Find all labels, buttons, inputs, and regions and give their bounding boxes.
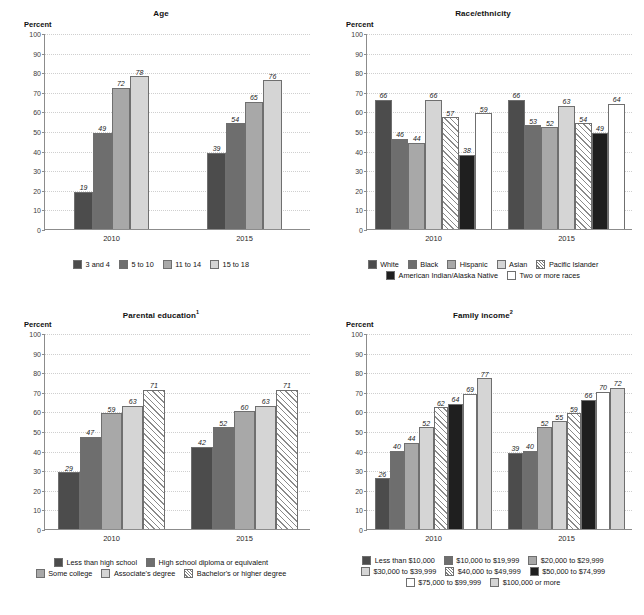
bar-value-label: 71 [283, 382, 291, 389]
legend-swatch-icon [361, 567, 370, 576]
legend-item[interactable]: $40,000 to $49,999 [445, 567, 520, 576]
bar: 44 [408, 143, 425, 229]
bar: 52 [213, 427, 234, 529]
y-tick-label: 20 [33, 187, 41, 194]
y-tick-label: 100 [351, 31, 363, 38]
legend-swatch-icon [362, 556, 371, 565]
legend-label: 11 to 14 [175, 261, 201, 269]
bar: 39 [508, 453, 523, 529]
y-tick-label: 50 [355, 429, 363, 436]
legend-item[interactable]: 3 and 4 [73, 260, 110, 269]
bar-value-label: 59 [108, 406, 116, 413]
y-tick-label: 50 [355, 129, 363, 136]
bar: 57 [442, 117, 459, 229]
chart-panel-parental-education: Parental education1Percent10090807060504… [0, 300, 322, 615]
bar-group-2015: 42526063712015 [178, 334, 311, 529]
legend-item[interactable]: $30,000 to $39,999 [361, 567, 436, 576]
bar: 71 [276, 390, 297, 529]
chart-panel-age: AgePercent100908070605040302010019497278… [0, 0, 322, 307]
legend-swatch-icon [184, 569, 193, 578]
legend-swatch-icon [490, 578, 499, 587]
bar-value-label: 59 [480, 106, 488, 113]
y-tick-label: 80 [355, 370, 363, 377]
legend-item[interactable]: Associate's degree [101, 569, 175, 578]
legend-label: $20,000 to $29,999 [541, 557, 604, 565]
legend-item[interactable]: $50,000 to $74,999 [530, 567, 605, 576]
bar: 66 [375, 100, 392, 229]
bar: 66 [581, 400, 596, 529]
legend-item[interactable]: White [368, 260, 399, 269]
legend-item[interactable]: Some college [36, 569, 93, 578]
bar-value-label: 57 [446, 110, 454, 117]
legend-item[interactable]: $10,000 to $19,999 [444, 556, 519, 565]
legend-row: Less than $10,000$10,000 to $19,999$20,0… [332, 556, 634, 565]
legend-item[interactable]: Hispanic [447, 260, 487, 269]
bar-value-label: 42 [198, 439, 206, 446]
bar-value-label: 19 [80, 184, 88, 191]
y-tick-label: 40 [33, 448, 41, 455]
legend-item[interactable]: $75,000 to $99,999 [406, 578, 481, 587]
y-tick-label: 60 [33, 409, 41, 416]
legend-swatch-icon [386, 271, 395, 280]
y-tick-label: 90 [355, 50, 363, 57]
bar: 42 [191, 447, 212, 529]
x-tick-label: 2015 [558, 534, 575, 543]
y-tick-label: 0 [359, 527, 363, 534]
chart-title-footnote-marker: 1 [196, 309, 199, 315]
legend-item[interactable]: Less than $10,000 [362, 556, 435, 565]
legend-item[interactable]: Asian [497, 260, 528, 269]
bar: 78 [130, 76, 149, 229]
x-tick-label: 2015 [236, 534, 253, 543]
bar: 63 [122, 406, 143, 529]
legend-swatch-icon [73, 260, 82, 269]
y-tick-label: 50 [33, 429, 41, 436]
legend-item[interactable]: American Indian/Alaska Native [386, 271, 498, 280]
legend-swatch-icon [445, 567, 454, 576]
bar-value-label: 69 [466, 386, 474, 393]
y-tick-label: 70 [33, 89, 41, 96]
bar-value-label: 40 [526, 443, 534, 450]
legend-item[interactable]: Two or more races [507, 271, 580, 280]
legend-swatch-icon [163, 260, 172, 269]
bar-value-label: 49 [98, 125, 106, 132]
legend-row: $75,000 to $99,999$100,000 or more [332, 578, 634, 587]
legend-item[interactable]: 5 to 10 [119, 260, 154, 269]
bar: 19 [74, 192, 93, 229]
legend-swatch-icon [530, 567, 539, 576]
legend-label: 5 to 10 [131, 261, 153, 269]
bar-value-label: 63 [262, 398, 270, 405]
y-tick-label: 100 [29, 331, 41, 338]
y-tick-label: 20 [355, 187, 363, 194]
bar-value-label: 72 [117, 80, 125, 87]
bar: 63 [255, 406, 276, 529]
legend-swatch-icon [406, 578, 415, 587]
legend-item[interactable]: 11 to 14 [163, 260, 201, 269]
plot-area-family-income: 1009080706050403020100264044526264697720… [366, 334, 632, 530]
bar-value-label: 66 [430, 92, 438, 99]
legend-label: Two or more races [519, 272, 579, 280]
legend-item[interactable]: Pacific Islander [536, 260, 598, 269]
legend-item[interactable]: Less than high school [54, 558, 137, 567]
legend-label: White [380, 261, 399, 269]
bar: 62 [434, 407, 449, 529]
legend-label: Hispanic [460, 261, 488, 269]
legend-item[interactable]: Bachelor's or higher degree [184, 569, 286, 578]
y-tick-label: 0 [37, 227, 41, 234]
legend-swatch-icon [36, 569, 45, 578]
y-tick-label: 20 [355, 487, 363, 494]
legend-item[interactable]: High school diploma or equivalent [146, 558, 268, 567]
legend-item[interactable]: Black [408, 260, 438, 269]
bar: 63 [558, 106, 575, 229]
chart-title-text: Family income [453, 311, 510, 320]
bar: 66 [425, 100, 442, 229]
legend-item[interactable]: $100,000 or more [490, 578, 560, 587]
legend-row: Less than high schoolHigh school diploma… [10, 558, 312, 567]
bar: 72 [112, 88, 131, 229]
bar: 44 [404, 443, 419, 529]
y-tick-mark [364, 230, 367, 231]
bar-value-label: 44 [408, 435, 416, 442]
chart-panel-family-income: Family income2Percent1009080706050403020… [322, 300, 644, 615]
legend-item[interactable]: 15 to 18 [210, 260, 249, 269]
legend-item[interactable]: $20,000 to $29,999 [528, 556, 603, 565]
bar: 72 [610, 388, 625, 529]
